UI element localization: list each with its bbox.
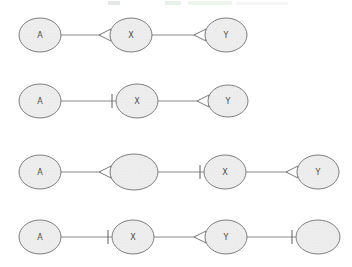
arrowhead-icon: [194, 29, 206, 41]
arrowhead-icon: [194, 231, 206, 243]
arrowhead-icon: [99, 29, 111, 41]
arrowhead-icon: [197, 95, 209, 107]
edge-r2n2-to-r2n3: [158, 95, 209, 107]
edge-r1n2-to-r1n3: [152, 29, 206, 41]
diagram-row-2: AXY: [19, 84, 248, 118]
node-label: X: [128, 31, 134, 40]
diagram-row-3: AXY: [19, 154, 339, 190]
node-unlabeled[interactable]: [296, 220, 340, 254]
edge-r4n2-to-r4n3: [154, 231, 206, 243]
node-label: A: [37, 97, 43, 106]
path-diagram-svg: AXYAXYAXYAXY: [0, 0, 352, 267]
node-label: A: [37, 31, 43, 40]
node-label: Y: [222, 233, 228, 242]
edge-r2n1-to-r2n2: [61, 94, 116, 108]
node-label: Y: [224, 97, 230, 106]
node-label: Y: [222, 31, 228, 40]
node-y[interactable]: Y: [205, 18, 247, 52]
node-label: A: [37, 233, 43, 242]
arrowhead-icon: [286, 166, 298, 178]
node-y[interactable]: Y: [297, 155, 339, 189]
edge-r3n1-to-r3n2: [61, 166, 111, 178]
node-ellipse[interactable]: [110, 154, 158, 190]
node-ellipse[interactable]: [296, 220, 340, 254]
edge-r3n2-to-r3n3: [158, 165, 204, 179]
node-y[interactable]: Y: [205, 220, 247, 254]
node-a[interactable]: A: [19, 18, 61, 52]
edge-r3n3-to-r3n4: [246, 166, 298, 178]
node-a[interactable]: A: [19, 155, 61, 189]
node-x[interactable]: X: [110, 18, 152, 52]
node-y[interactable]: Y: [208, 85, 248, 117]
node-label: X: [134, 97, 140, 106]
node-unlabeled[interactable]: [110, 154, 158, 190]
node-label: X: [222, 168, 228, 177]
edge-r4n3-to-r4n4: [247, 230, 296, 244]
diagram-row-1: AXY: [19, 18, 247, 52]
node-a[interactable]: A: [19, 220, 61, 254]
arrowhead-icon: [99, 166, 111, 178]
node-x[interactable]: X: [116, 84, 158, 118]
node-label: Y: [314, 168, 320, 177]
node-x[interactable]: X: [112, 220, 154, 254]
node-label: A: [37, 168, 43, 177]
node-label: X: [130, 233, 136, 242]
edge-r1n1-to-r1n2: [61, 29, 111, 41]
node-a[interactable]: A: [19, 84, 61, 118]
diagram-rows-layer: AXYAXYAXYAXY: [19, 18, 340, 254]
diagram-row-4: AXY: [19, 220, 340, 254]
node-x[interactable]: X: [204, 155, 246, 189]
edge-r4n1-to-r4n2: [61, 230, 112, 244]
figure-canvas: AXYAXYAXYAXY: [0, 0, 352, 267]
